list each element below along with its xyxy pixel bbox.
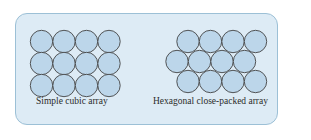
simple-cubic-array <box>30 30 120 96</box>
packing-diagram <box>0 0 311 140</box>
hexagonal-close-packed-label: Hexagonal close-packed array <box>153 96 268 106</box>
simple-cubic-label: Simple cubic array <box>36 96 108 106</box>
hexagonal-close-packed-array <box>166 30 267 92</box>
